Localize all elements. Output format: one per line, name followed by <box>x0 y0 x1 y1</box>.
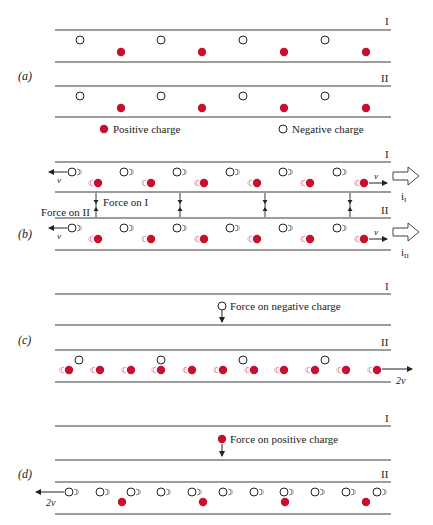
negative-charge-icon <box>218 302 226 310</box>
negative-charges <box>76 36 329 100</box>
panel-a-label: (a) <box>18 69 32 83</box>
wire-II-label: II <box>381 204 389 216</box>
negative-charge-icon <box>279 125 287 133</box>
svg-text:v: v <box>57 175 61 185</box>
legend-positive: Positive charge <box>113 123 180 135</box>
wire-I-label: I <box>385 15 389 27</box>
positive-charges-moving <box>60 366 382 374</box>
legend: Positive charge Negative charge <box>100 123 364 135</box>
legend-negative: Negative charge <box>292 123 364 135</box>
current-arrow-icon <box>393 167 419 185</box>
force-on-positive-label: Force on positive charge <box>230 433 338 445</box>
svg-text:I: I <box>385 280 389 292</box>
panel-d-label: (d) <box>18 467 32 481</box>
positive-charges-moving <box>89 179 369 243</box>
parallel-wires-diagram: (a) I II Positive charge Negative charge… <box>0 0 433 525</box>
velocity-label: 2v <box>396 375 406 386</box>
svg-text:II: II <box>381 468 389 480</box>
current-I-label: iI <box>401 190 407 204</box>
wire-I-label: I <box>385 148 389 160</box>
force-on-negative-label: Force on negative charge <box>230 300 341 312</box>
svg-text:I: I <box>385 412 389 424</box>
panel-b-label: (b) <box>18 227 32 241</box>
panel-d: (d) I II Force on positive charge 2v <box>18 412 391 514</box>
svg-text:v: v <box>374 171 378 181</box>
positive-charges <box>117 48 370 112</box>
svg-text:v: v <box>374 227 378 237</box>
wire-II-label: II <box>381 72 389 84</box>
positive-charges <box>118 498 370 506</box>
current-arrow-icon <box>393 223 419 241</box>
negative-charges-moving <box>65 488 387 496</box>
panel-a: (a) I II Positive charge Negative charge <box>18 15 391 135</box>
panel-c: (c) I II Force on negative charge 2v <box>18 280 412 386</box>
panel-b: (b) I II v v v v iI iII <box>18 148 419 260</box>
force-on-II-label: Force on II <box>41 206 90 218</box>
force-on-I-label: Force on I <box>103 196 149 208</box>
current-II-label: iII <box>401 246 409 260</box>
svg-text:II: II <box>381 336 389 348</box>
negative-charges <box>75 356 329 364</box>
svg-text:v: v <box>57 231 61 241</box>
positive-charge-icon <box>218 435 226 443</box>
velocity-label: 2v <box>46 497 56 508</box>
panel-c-label: (c) <box>18 333 31 347</box>
positive-charge-icon <box>100 125 108 133</box>
